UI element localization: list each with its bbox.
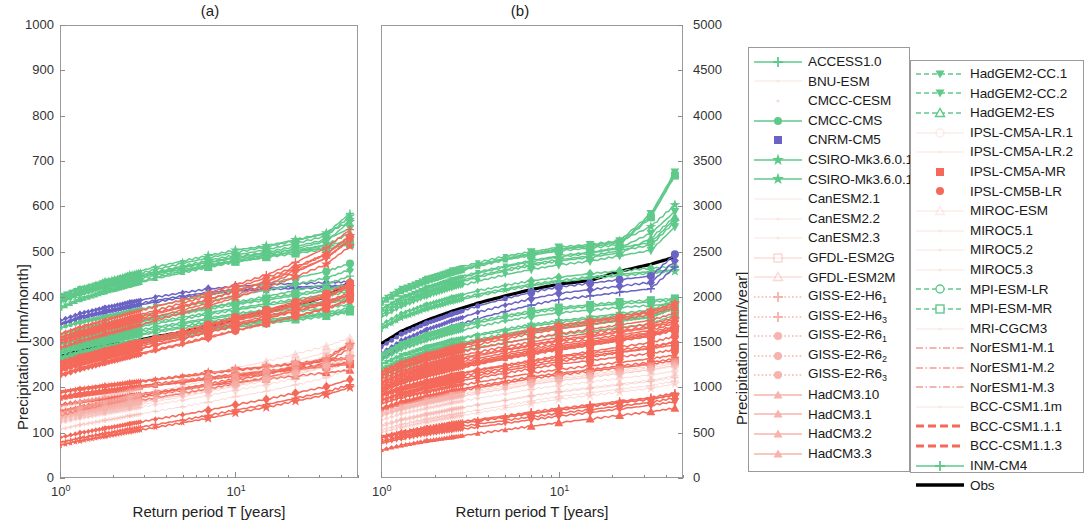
- legend-item[interactable]: ACCESS1.0: [752, 52, 906, 72]
- legend-marker: [938, 327, 941, 330]
- data-marker: [378, 315, 383, 320]
- legend-item[interactable]: GFDL-ESM2G: [752, 248, 906, 268]
- data-marker: [399, 379, 404, 384]
- legend-item[interactable]: MIROC5.3: [914, 260, 1080, 280]
- data-marker: [460, 378, 465, 383]
- legend-item[interactable]: NorESM1-M.3: [914, 378, 1080, 398]
- legend-line-sample: [914, 457, 966, 475]
- legend-line-sample: [752, 445, 804, 463]
- legend-line-sample: [914, 124, 966, 142]
- legend-item[interactable]: HadGEM2-CC.1: [914, 64, 1080, 84]
- data-marker: [399, 341, 404, 346]
- legend-sample: [752, 210, 804, 228]
- data-marker: [394, 406, 399, 411]
- legend-item[interactable]: HadGEM2-CC.2: [914, 84, 1080, 104]
- x-tick-mark-minor: [666, 475, 667, 478]
- legend-item[interactable]: GISS-E2-R62: [752, 346, 906, 366]
- legend-item[interactable]: HadCM3.1: [752, 405, 906, 425]
- data-marker: [399, 404, 404, 409]
- legend-item[interactable]: MIROC5.1: [914, 221, 1080, 241]
- legend-item[interactable]: IPSL-CM5A-MR: [914, 162, 1080, 182]
- legend-sample: [914, 163, 966, 181]
- legend-sample: [752, 190, 804, 208]
- legend-item[interactable]: BCC-CSM1.1.3: [914, 436, 1080, 456]
- legend-marker: [938, 151, 941, 154]
- legend-label: HadGEM2-CC.1: [966, 67, 1067, 81]
- legend-item[interactable]: CMCC-CMS: [752, 111, 906, 131]
- legend-sample: [914, 378, 966, 396]
- data-marker: [503, 383, 508, 388]
- legend-marker: [774, 136, 782, 144]
- legend-item[interactable]: MIROC5.2: [914, 240, 1080, 260]
- legend-line-sample: [914, 163, 966, 181]
- data-marker: [390, 407, 395, 412]
- legend-label-subscript: 2: [882, 354, 887, 364]
- legend-line-sample: [914, 65, 966, 83]
- legend-item[interactable]: MIROC-ESM: [914, 201, 1080, 221]
- data-marker: [503, 282, 508, 288]
- legend-item[interactable]: GFDL-ESM2M: [752, 268, 906, 288]
- legend-item[interactable]: CSIRO-Mk3.6.0.1: [752, 170, 906, 190]
- legend-item[interactable]: GISS-E2-H61: [752, 287, 906, 307]
- data-marker: [390, 347, 395, 352]
- legend-item[interactable]: IPSL-CM5A-LR.2: [914, 142, 1080, 162]
- data-marker: [384, 350, 389, 355]
- legend-marker: [936, 285, 944, 293]
- legend-item[interactable]: MPI-ESM-MR: [914, 299, 1080, 319]
- legend-sample: [914, 124, 966, 142]
- legend-item[interactable]: NorESM1-M.2: [914, 358, 1080, 378]
- legend-item[interactable]: IPSL-CM5B-LR: [914, 182, 1080, 202]
- legend-item[interactable]: MRI-CGCM3: [914, 319, 1080, 339]
- legend-label: NorESM1-M.3: [966, 381, 1054, 395]
- legend-item[interactable]: IPSL-CM5A-LR.1: [914, 123, 1080, 143]
- legend-item[interactable]: HadCM3.10: [752, 385, 906, 405]
- data-marker: [475, 402, 480, 407]
- data-marker: [378, 402, 383, 407]
- y-tick-mark: [678, 478, 683, 479]
- data-marker: [460, 309, 465, 314]
- legend-item[interactable]: BCC-CSM1.1m: [914, 397, 1080, 417]
- data-marker: [384, 409, 389, 414]
- legend-item[interactable]: GISS-E2-R61: [752, 326, 906, 346]
- legend-line-sample: [752, 268, 804, 286]
- legend-item[interactable]: CSIRO-Mk3.6.0.10: [752, 150, 906, 170]
- legend-marker: [773, 312, 783, 322]
- legend-item[interactable]: Obs: [914, 475, 1080, 495]
- data-marker: [503, 302, 508, 308]
- legend-label: GISS-E2-H61: [804, 289, 887, 305]
- legend-marker: [935, 461, 945, 471]
- legend-line-sample: [914, 222, 966, 240]
- legend-item[interactable]: CNRM-CM5: [752, 130, 906, 150]
- legend-item[interactable]: NorESM1-M.1: [914, 338, 1080, 358]
- legend-sample: [914, 437, 966, 455]
- legend-marker: [938, 268, 941, 271]
- y-tick-mark: [678, 70, 683, 71]
- legend-sample: [914, 182, 966, 200]
- legend-marker: [938, 405, 941, 408]
- legend-line-sample: [914, 417, 966, 435]
- legend-item[interactable]: BCC-CSM1.1.1: [914, 417, 1080, 437]
- legend-line-sample: [752, 210, 804, 228]
- y-tick-mark: [678, 25, 683, 26]
- legend-item[interactable]: MPI-ESM-LR: [914, 280, 1080, 300]
- legend-item[interactable]: INM-CM4: [914, 456, 1080, 476]
- legend-item[interactable]: CMCC-CESM: [752, 91, 906, 111]
- legend-item[interactable]: CanESM2.2: [752, 209, 906, 229]
- legend-item[interactable]: CanESM2.1: [752, 189, 906, 209]
- legend-item[interactable]: GISS-E2-R63: [752, 366, 906, 386]
- legend-item[interactable]: GISS-E2-H63: [752, 307, 906, 327]
- legend-item[interactable]: CanESM2.3: [752, 228, 906, 248]
- legend-item[interactable]: HadCM3.3: [752, 444, 906, 464]
- data-marker: [460, 391, 465, 396]
- legend-label: HadGEM2-ES: [966, 106, 1055, 120]
- legend-item[interactable]: HadCM3.2: [752, 424, 906, 444]
- legend-item[interactable]: BNU-ESM: [752, 72, 906, 92]
- legend-sample: [914, 339, 966, 357]
- data-marker: [586, 370, 594, 378]
- x-tick-mark-minor: [644, 475, 645, 478]
- legend-label: MIROC5.3: [966, 263, 1033, 277]
- x-tick-mark-minor: [531, 475, 532, 478]
- legend-item[interactable]: HadGEM2-ES: [914, 103, 1080, 123]
- data-marker: [390, 338, 395, 343]
- legend-label-subscript: 3: [882, 373, 887, 383]
